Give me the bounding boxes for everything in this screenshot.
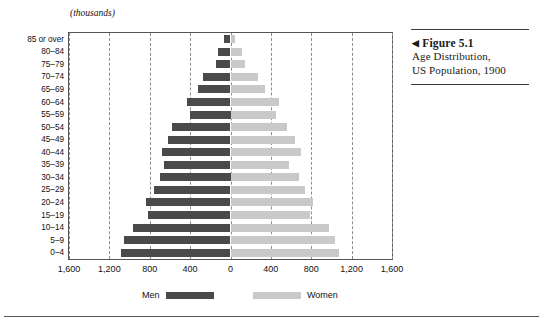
x-tick-label: 400 xyxy=(183,264,198,274)
age-label-40–44: 40–44 xyxy=(0,148,64,157)
bar-men-65–69 xyxy=(198,85,230,93)
bar-men-10–14 xyxy=(133,224,231,232)
bar-women-80–84 xyxy=(231,48,242,56)
bar-men-5–9 xyxy=(124,236,231,244)
age-label-5–9: 5–9 xyxy=(0,236,64,245)
caption-bottom-rule xyxy=(411,84,529,85)
pyramid-row xyxy=(69,58,392,71)
pyramid-row xyxy=(69,108,392,121)
bar-women-25–29 xyxy=(231,186,306,194)
units-label: (thousands) xyxy=(70,8,115,18)
bar-men-40–44 xyxy=(162,148,231,156)
bar-men-15–19 xyxy=(148,211,231,219)
bar-women-65–69 xyxy=(231,85,265,93)
age-label-20–24: 20–24 xyxy=(0,198,64,207)
triangle-left-icon: ◀ xyxy=(412,38,419,48)
pyramid-row xyxy=(69,83,392,96)
age-label-30–34: 30–34 xyxy=(0,173,64,182)
age-label-35–39: 35–39 xyxy=(0,160,64,169)
bar-women-60–64 xyxy=(231,98,279,106)
legend-swatch-women xyxy=(253,292,301,299)
age-label-85-or-over: 85 or over xyxy=(0,35,64,44)
bar-men-25–29 xyxy=(154,186,231,194)
bar-women-40–44 xyxy=(231,148,302,156)
bar-women-50–54 xyxy=(231,123,288,131)
bar-women-35–39 xyxy=(231,161,290,169)
bar-men-0–4 xyxy=(121,249,230,257)
bar-men-60–64 xyxy=(187,98,231,106)
age-label-10–14: 10–14 xyxy=(0,223,64,232)
bar-women-0–4 xyxy=(231,249,339,257)
pyramid-row xyxy=(69,33,392,46)
page-divider xyxy=(4,316,539,317)
pyramid-row xyxy=(69,71,392,84)
pyramid-row xyxy=(69,121,392,134)
bar-women-75–79 xyxy=(231,60,245,68)
bar-men-45–49 xyxy=(168,136,231,144)
pyramid-row xyxy=(69,133,392,146)
bar-men-50–54 xyxy=(172,123,231,131)
figure-number-text: Figure 5.1 xyxy=(422,37,474,49)
bar-men-35–39 xyxy=(164,161,231,169)
bar-women-15–19 xyxy=(231,211,311,219)
figure-title-line-1: Age Distribution, xyxy=(412,50,533,64)
x-tick-label: 1,200 xyxy=(98,264,121,274)
x-tick-label: 800 xyxy=(142,264,157,274)
bar-women-5–9 xyxy=(231,236,336,244)
figure-number: ◀Figure 5.1 xyxy=(412,36,533,50)
population-pyramid-plot xyxy=(68,32,393,260)
figure-title-line-2: US Population, 1900 xyxy=(412,64,533,78)
x-tick-label: 0 xyxy=(228,264,233,274)
pyramid-row xyxy=(69,171,392,184)
pyramid-row xyxy=(69,159,392,172)
age-label-25–29: 25–29 xyxy=(0,185,64,194)
age-label-50–54: 50–54 xyxy=(0,123,64,132)
x-tick-label: 1,600 xyxy=(381,264,404,274)
pyramid-row xyxy=(69,184,392,197)
bar-women-30–34 xyxy=(231,173,300,181)
chart-legend: Men Women xyxy=(68,290,393,304)
bar-men-55–59 xyxy=(190,111,230,119)
x-axis-ticks: 1,6001,20080040004008001,2001,600 xyxy=(68,264,393,278)
age-label-70–74: 70–74 xyxy=(0,72,64,81)
bar-rows xyxy=(69,33,392,259)
bar-women-55–59 xyxy=(231,111,276,119)
age-label-55–59: 55–59 xyxy=(0,110,64,119)
age-axis-labels: 85 or over80–8475–7970–7465–6960–6455–59… xyxy=(0,32,64,260)
legend-label-women: Women xyxy=(307,290,338,300)
age-label-80–84: 80–84 xyxy=(0,47,64,56)
age-label-45–49: 45–49 xyxy=(0,135,64,144)
x-tick-label: 400 xyxy=(263,264,278,274)
pyramid-row xyxy=(69,221,392,234)
bar-women-85-or-over xyxy=(231,35,236,43)
bar-men-20–24 xyxy=(146,198,231,206)
x-tick-label: 1,200 xyxy=(340,264,363,274)
legend-item-women: Women xyxy=(253,290,338,300)
bar-women-10–14 xyxy=(231,224,330,232)
age-label-0–4: 0–4 xyxy=(0,248,64,257)
pyramid-row xyxy=(69,209,392,222)
pyramid-row xyxy=(69,146,392,159)
pyramid-row xyxy=(69,246,392,259)
figure-caption: ◀Figure 5.1 Age Distribution, US Populat… xyxy=(411,29,533,85)
pyramid-row xyxy=(69,46,392,59)
age-label-75–79: 75–79 xyxy=(0,60,64,69)
bar-men-70–74 xyxy=(203,73,230,81)
x-tick-label: 1,600 xyxy=(58,264,81,274)
bar-men-30–34 xyxy=(160,173,231,181)
pyramid-row xyxy=(69,96,392,109)
bar-men-75–79 xyxy=(216,60,230,68)
age-label-65–69: 65–69 xyxy=(0,85,64,94)
x-tick-label: 800 xyxy=(304,264,319,274)
legend-label-men: Men xyxy=(142,290,160,300)
gridline-right-1600 xyxy=(392,33,393,259)
pyramid-row xyxy=(69,196,392,209)
pyramid-row xyxy=(69,234,392,247)
bar-women-70–74 xyxy=(231,73,258,81)
bar-men-80–84 xyxy=(218,48,231,56)
bar-women-20–24 xyxy=(231,198,314,206)
legend-swatch-men xyxy=(166,292,214,299)
legend-item-men: Men xyxy=(142,290,214,300)
age-label-15–19: 15–19 xyxy=(0,211,64,220)
bar-women-45–49 xyxy=(231,136,296,144)
